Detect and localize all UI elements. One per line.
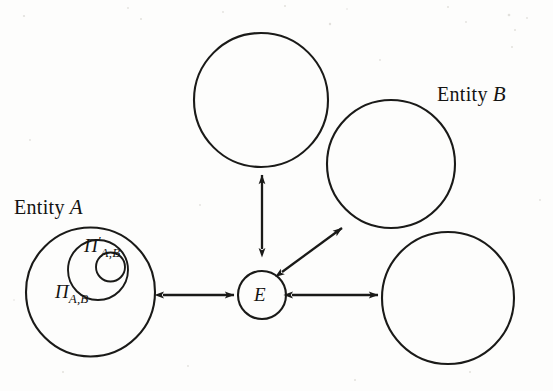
pi-outer-symbol: Π [55, 281, 69, 302]
pi-inner-symbol: Π [84, 235, 98, 256]
top-circle[interactable] [194, 33, 328, 167]
pi-outer-subscript: A,B [69, 291, 89, 306]
pi-inner-subscript: A,B [101, 245, 121, 260]
scan-noise [13, 5, 541, 381]
entity-b-upper-circle[interactable] [327, 100, 455, 228]
pi-outer-label: ΠA,B [55, 282, 88, 305]
center-node-label: E [254, 285, 266, 304]
entity-a-label-text: Entity [14, 196, 65, 218]
entity-a-label: EntityA [14, 197, 83, 218]
entity-b-label-text: Entity [437, 83, 488, 105]
entity-diagram-figure: EntityA EntityB ΠA,B Π′A,B E [0, 0, 553, 391]
entity-b-label: EntityB [437, 84, 506, 105]
entity-a-label-var: A [65, 195, 83, 219]
arrow-center-to-entity-b-upper[interactable] [282, 228, 342, 272]
entity-b-lower-circle[interactable] [382, 232, 514, 364]
pi-inner-label: Π′A,B [84, 234, 120, 259]
entity-b-label-var: B [488, 82, 506, 106]
